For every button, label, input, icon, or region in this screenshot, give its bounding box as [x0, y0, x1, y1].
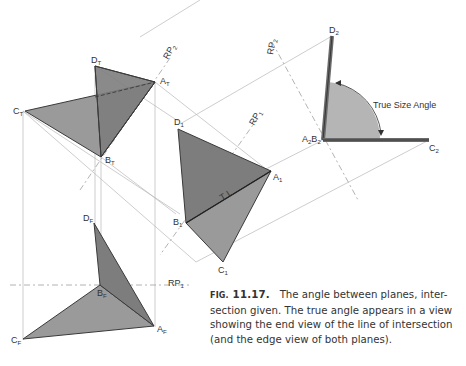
label-d2: D2 [329, 25, 340, 36]
front-view [23, 223, 154, 339]
label-ct: CT [13, 106, 24, 117]
label-dt: DT [91, 55, 102, 66]
label-af: AF [157, 324, 167, 335]
label-d1: D1 [174, 117, 185, 128]
label-c2: C2 [429, 143, 440, 154]
label-bt: BT [105, 155, 115, 166]
label-df: DF [83, 213, 94, 224]
label-rp1-aux: RP1 [247, 108, 265, 128]
label-a2b2: A2B2 [302, 134, 321, 145]
label-true-size-angle: True Size Angle [373, 100, 436, 110]
caption-line-1: The angle between planes, inter- [280, 289, 448, 300]
label-b1: B1 [173, 217, 183, 228]
label-rp2-aux: RP2 [265, 37, 279, 55]
label-a1: A1 [273, 172, 283, 183]
true-angle-fill [323, 82, 380, 140]
caption-line-4: (and the edge view of both planes). [210, 334, 392, 345]
aux2-view [323, 36, 429, 140]
caption-line-2: section given. The true angle appears in… [210, 305, 452, 316]
figure-caption: FIG. 11.17. The angle between planes, in… [210, 288, 462, 347]
label-rp2-top: RP2 [161, 42, 179, 62]
caption-line-3: showing the end view of the line of inte… [210, 319, 453, 330]
top-view [25, 66, 155, 157]
label-at: AT [160, 76, 170, 87]
label-cf: CF [11, 335, 22, 346]
figure-number: FIG. 11.17. [210, 289, 270, 300]
label-c1: C1 [218, 265, 229, 276]
label-rp1-front: RP1 [168, 278, 185, 289]
